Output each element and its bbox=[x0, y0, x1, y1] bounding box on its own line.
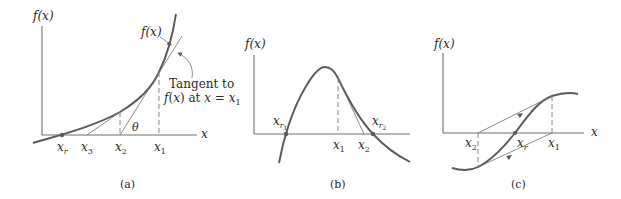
label-xr1: xr1 bbox=[273, 114, 287, 131]
tangent-line-x1 bbox=[338, 78, 364, 134]
root-point-1 bbox=[284, 132, 288, 136]
y-axis-label: f(x) bbox=[32, 9, 54, 23]
panel-a: f(x) x f(x) Tangent to f(x) at x = x1 θ … bbox=[32, 9, 241, 191]
label-x3: x3 bbox=[81, 140, 93, 156]
label-x2: x2 bbox=[115, 140, 127, 156]
tangent-label-line2: f(x) at x = x1 bbox=[163, 91, 241, 107]
tangent-line-x2 bbox=[87, 112, 120, 135]
curve-label-pointer bbox=[160, 37, 171, 45]
curve-label: f(x) bbox=[140, 25, 162, 39]
tangent-line-x2 bbox=[478, 133, 552, 167]
root-point-2 bbox=[371, 132, 375, 136]
caption-b: (b) bbox=[330, 178, 346, 191]
root-point bbox=[60, 133, 64, 137]
arrow-upper bbox=[517, 113, 523, 118]
root-point bbox=[513, 131, 517, 135]
y-axis-label: f(x) bbox=[244, 37, 266, 51]
tangent-label-pointer bbox=[178, 53, 192, 78]
caption-c: (c) bbox=[511, 178, 526, 191]
arrow-lower bbox=[506, 155, 512, 160]
y-axis-label: f(x) bbox=[433, 37, 455, 51]
label-x2: x2 bbox=[358, 138, 370, 154]
newton-method-figure: f(x) x f(x) Tangent to f(x) at x = x1 θ … bbox=[0, 0, 621, 199]
label-x2: x2 bbox=[465, 136, 477, 152]
label-x1: x1 bbox=[154, 140, 166, 156]
panel-c: f(x) x x2 xr x1 (c) bbox=[433, 37, 598, 191]
tangent-label-line1: Tangent to bbox=[169, 77, 234, 91]
angle-label: θ bbox=[132, 121, 139, 134]
caption-a: (a) bbox=[120, 178, 135, 191]
label-xr: xr bbox=[517, 136, 529, 152]
label-x1: x1 bbox=[548, 136, 560, 152]
label-x1: x1 bbox=[333, 138, 345, 154]
x-axis-label: x bbox=[201, 127, 208, 141]
label-xr2: xr2 bbox=[372, 114, 387, 131]
tangent-line-x1 bbox=[478, 96, 552, 133]
panel-b: f(x) xr1 x1 x2 xr2 (b) bbox=[244, 37, 410, 191]
x-axis-label: x bbox=[591, 125, 598, 139]
label-xr: xr bbox=[57, 140, 69, 156]
